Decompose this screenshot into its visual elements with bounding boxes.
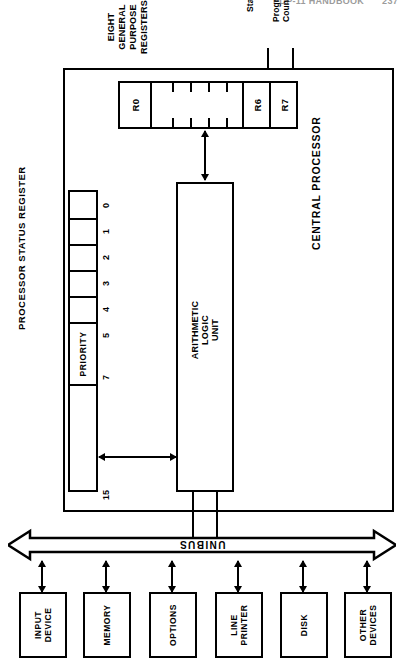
device-label-options: OPTIONS [168, 604, 178, 646]
running-head-page-number: 237 [382, 0, 398, 6]
device-box-line-printer: LINE PRINTER [215, 592, 263, 658]
register-r7-label: R7 [278, 99, 289, 112]
psr-bit-label-3: 3 [101, 281, 111, 286]
device-label-other-devices: OTHER DEVICES [358, 605, 378, 646]
psr-bit-2 [70, 244, 96, 270]
device-box-other-devices: OTHER DEVICES [344, 592, 392, 658]
bus-stub-other-devices [366, 561, 368, 592]
device-label-line-printer: LINE PRINTER [229, 605, 249, 646]
device-box-memory: MEMORY [83, 592, 131, 658]
running-head: PDP-11 HANDBOOK 237 [273, 0, 398, 10]
arithmetic-logic-unit-label: ARITHMETIC LOGIC UNIT [176, 310, 234, 350]
psr-bit-label-7: 7 [101, 375, 111, 380]
unibus-text: UNIBUS [179, 540, 226, 551]
bus-stub-options [171, 561, 173, 592]
unibus-label: UNIBUS [150, 538, 254, 552]
general-purpose-registers-text: EIGHT GENERAL PURPOSE REGISTERS [106, 0, 150, 64]
central-processor-label: CENTRAL PROCESSOR [300, 250, 404, 274]
register-bank: R0 R6 R7 [118, 81, 298, 129]
psr-bit-0 [70, 192, 96, 218]
psr-condition-field [70, 384, 96, 490]
psr-bit-3 [70, 270, 96, 296]
program-counter-text: Program Counter [272, 0, 291, 22]
psr-priority-field: PRIORITY [70, 322, 96, 384]
psr-bit-label-15: 15 [101, 490, 111, 500]
arithmetic-logic-unit-text: ARITHMETIC LOGIC UNIT [190, 301, 220, 360]
device-box-input-device: INPUT DEVICE [19, 592, 67, 658]
psr-bit-label-0: 0 [101, 203, 111, 208]
register-r6: R6 [242, 83, 269, 127]
psr-priority-label: PRIORITY [78, 332, 88, 377]
bus-stub-line-printer [237, 561, 239, 592]
bus-stub-disk [302, 561, 304, 592]
registers-alu-arrow-icon [204, 131, 206, 180]
register-r0: R0 [120, 83, 150, 127]
bus-stub-input-device [41, 561, 43, 592]
device-box-options: OPTIONS [149, 592, 197, 658]
psr-bit-label-2: 2 [101, 255, 111, 260]
psr-bit-label-5: 5 [101, 333, 111, 338]
bus-stub-memory [105, 561, 107, 592]
processor-status-register-box: PRIORITY [68, 190, 98, 492]
register-r7: R7 [269, 83, 296, 127]
stack-pointer-text: Stack Pointer [246, 0, 256, 12]
psr-bit-4 [70, 296, 96, 322]
psr-bit-1 [70, 218, 96, 244]
psr-bit-label-4: 4 [101, 307, 111, 312]
device-label-memory: MEMORY [102, 605, 112, 646]
psr-alu-arrow-icon [99, 456, 176, 458]
register-r1-r5-span [150, 83, 242, 127]
program-counter-label: Program Counter [258, 22, 348, 44]
register-r6-label: R6 [251, 99, 262, 112]
processor-status-register-text: PROCESSOR STATUS REGISTER [16, 166, 27, 330]
central-processor-text: CENTRAL PROCESSOR [310, 116, 322, 250]
device-label-disk: DISK [299, 614, 309, 636]
diagram-canvas: PDP-11 HANDBOOK 237 Stack Pointer Progra… [0, 0, 404, 661]
device-box-disk: DISK [280, 592, 328, 658]
register-r0-label: R0 [130, 99, 141, 112]
psr-bit-label-1: 1 [101, 229, 111, 234]
device-label-input-device: INPUT DEVICE [33, 608, 53, 643]
